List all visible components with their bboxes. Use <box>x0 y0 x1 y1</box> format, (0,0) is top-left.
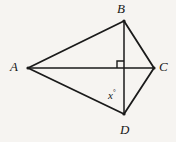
right-angle-icon <box>117 61 124 68</box>
vertex-point-D <box>122 112 125 115</box>
angle-label-x: x° <box>108 89 116 101</box>
vertex-label-D: D <box>120 123 129 136</box>
segment-BC <box>124 21 154 68</box>
segment-CD <box>124 68 154 114</box>
degree-symbol: ° <box>113 88 116 96</box>
vertex-label-A: A <box>10 60 18 73</box>
vertex-point-A <box>26 66 29 69</box>
segment-AB <box>28 21 124 68</box>
geometry-figure: A B C D x° <box>0 0 176 142</box>
vertex-point-B <box>122 19 125 22</box>
geometry-canvas <box>0 0 176 142</box>
vertex-point-C <box>152 66 155 69</box>
vertex-label-B: B <box>117 2 125 15</box>
vertex-label-C: C <box>159 60 168 73</box>
